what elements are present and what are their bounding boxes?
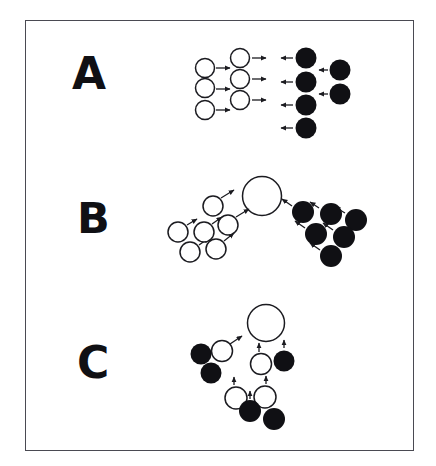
open-circle-node (168, 222, 188, 242)
filled-circle-node (263, 408, 285, 430)
filled-circle-node (333, 226, 355, 248)
filled-circle-node (320, 203, 342, 225)
filled-circle-node (296, 118, 317, 139)
figure-root: A B C (0, 0, 436, 466)
panel-c (191, 305, 295, 431)
panel-label-b: B (77, 197, 110, 240)
panel-b (168, 177, 367, 268)
open-circle-node (180, 242, 200, 262)
panel-label-a: A (72, 52, 106, 96)
mixed-circle-quad-bottom (225, 376, 285, 430)
filled-circle-node (305, 223, 327, 245)
open-circle-node (231, 70, 250, 89)
filled-circle-node (292, 201, 314, 223)
filled-circle-node (296, 72, 317, 93)
panel-label-c: C (77, 341, 109, 385)
mixed-circle-trio-upper-left (191, 336, 243, 384)
filled-circle-node (274, 351, 295, 372)
filled-circle-node (296, 95, 317, 116)
mixed-circle-pair-middle (251, 340, 295, 375)
open-circle-node (203, 196, 223, 216)
filled-circle-triangular-cluster (282, 199, 367, 267)
open-circle-node (196, 79, 215, 98)
open-circle-node (218, 215, 238, 235)
filled-circle-node (296, 48, 317, 69)
direction-arrow-icon (221, 190, 234, 198)
filled-circle-node (201, 363, 222, 384)
filled-circle-node (320, 245, 342, 267)
open-circle-node (194, 222, 214, 242)
figure-diagram-canvas (0, 0, 436, 466)
open-circle-node (212, 341, 233, 362)
large-open-circle (248, 305, 285, 342)
open-circle-column-pair (196, 49, 267, 120)
direction-arrow-icon (230, 336, 242, 344)
open-circle-node (248, 305, 285, 342)
open-circle-node (196, 59, 215, 78)
open-circle-diagonal-cluster (168, 190, 249, 262)
direction-arrow-icon (282, 199, 292, 206)
filled-circle-node (239, 400, 261, 422)
svg-panel-groups (168, 48, 367, 431)
open-circle-node (251, 354, 272, 375)
open-circle-node (196, 101, 215, 120)
open-circle-node (206, 239, 226, 259)
filled-circle-column-pair (281, 48, 351, 139)
filled-circle-node (330, 84, 351, 105)
open-circle-node (231, 49, 250, 68)
direction-arrow-icon (187, 219, 197, 225)
filled-circle-node (191, 344, 212, 365)
open-circle-node (231, 91, 250, 110)
panel-a (196, 48, 351, 139)
filled-circle-node (330, 60, 351, 81)
direction-arrow-icon (236, 209, 249, 217)
